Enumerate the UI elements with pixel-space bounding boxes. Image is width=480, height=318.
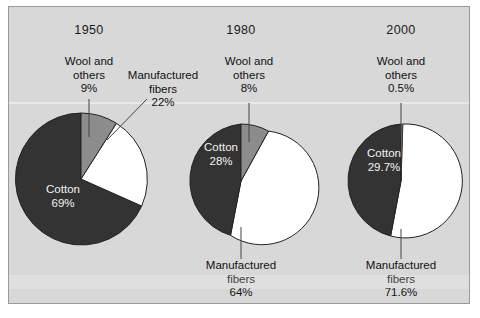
- callout-2000-wool-line2: others: [351, 69, 451, 83]
- callout-2000-manufactured-value: 71.6%: [351, 286, 451, 300]
- callout-1950-manufactured-line1: Manufactured: [113, 69, 213, 83]
- label-2000-cotton-name: Cotton: [347, 147, 421, 161]
- callout-1980-wool-line2: others: [199, 69, 299, 83]
- callout-1950-manufactured: Manufactured fibers 22%: [113, 69, 213, 110]
- callout-2000-manufactured: Manufactured fibers 71.6%: [351, 259, 451, 300]
- callout-2000-wool: Wool and others 0.5%: [351, 55, 451, 96]
- pie-1980: [190, 103, 319, 259]
- callout-1980-manufactured-line2: fibers: [191, 273, 291, 287]
- label-2000-cotton: Cotton 29.7%: [347, 147, 421, 174]
- label-1980-cotton-value: 28%: [185, 155, 257, 169]
- slice-2000-cotton: [348, 124, 401, 236]
- callout-1980-wool: Wool and others 8%: [199, 55, 299, 96]
- callout-2000-manufactured-line1: Manufactured: [351, 259, 451, 273]
- callout-1980-manufactured-value: 64%: [191, 286, 291, 300]
- callout-2000-wool-value: 0.5%: [351, 82, 451, 96]
- chart-frame: 1950 1980 2000: [8, 6, 470, 304]
- pie-1950: [15, 99, 147, 245]
- pie-2000: [348, 103, 462, 259]
- callout-1950-wool-line1: Wool and: [39, 55, 139, 69]
- label-1950-cotton: Cotton 69%: [23, 183, 103, 210]
- figure-canvas: 1950 1980 2000: [0, 0, 480, 318]
- callout-1980-manufactured: Manufactured fibers 64%: [191, 259, 291, 300]
- callout-2000-manufactured-line2: fibers: [351, 273, 451, 287]
- callout-1980-wool-value: 8%: [199, 82, 299, 96]
- label-1980-cotton-name: Cotton: [185, 141, 257, 155]
- label-1950-cotton-name: Cotton: [23, 183, 103, 197]
- callout-2000-wool-line1: Wool and: [351, 55, 451, 69]
- callout-1980-wool-line1: Wool and: [199, 55, 299, 69]
- callout-1980-manufactured-line1: Manufactured: [191, 259, 291, 273]
- label-2000-cotton-value: 29.7%: [347, 161, 421, 175]
- label-1950-cotton-value: 69%: [23, 197, 103, 211]
- callout-1950-manufactured-line2: fibers: [113, 83, 213, 97]
- label-1980-cotton: Cotton 28%: [185, 141, 257, 168]
- callout-1950-manufactured-value: 22%: [113, 96, 213, 110]
